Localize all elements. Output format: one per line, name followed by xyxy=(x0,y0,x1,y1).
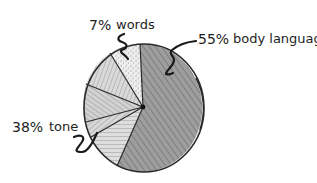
label-tone-pct: 38% xyxy=(12,119,43,135)
label-words-name: words xyxy=(116,17,155,32)
label-body-language-pct: 55% xyxy=(198,31,229,47)
label-body-language: 55% body language xyxy=(198,31,317,47)
label-tone: 38% tone xyxy=(12,119,78,135)
label-words-pct: 7% xyxy=(89,17,111,33)
label-body-language-name: body language xyxy=(233,31,317,46)
label-tone-name: tone xyxy=(49,119,78,134)
label-words: 7% words xyxy=(89,17,155,33)
pie-chart: 7% words 55% body language 38% tone xyxy=(0,0,317,183)
pie-center-dot xyxy=(141,105,146,110)
